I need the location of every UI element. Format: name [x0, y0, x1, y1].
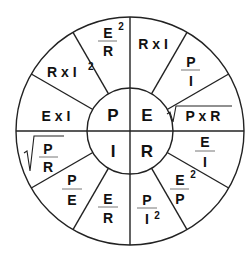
- svg-text:2: 2: [154, 210, 160, 221]
- formula-sqrt-p-x-r: P x R: [167, 106, 232, 124]
- svg-text:I: I: [203, 154, 207, 170]
- svg-text:R: R: [103, 43, 113, 59]
- svg-text:E x I: E x I: [42, 108, 71, 124]
- formula-sqrt-p-over-r: P R: [24, 136, 64, 175]
- svg-text:P: P: [142, 192, 151, 208]
- ohms-law-wheel: P E I R E 2 R R x I 2 E x I R x I P I P …: [0, 0, 252, 257]
- svg-text:2: 2: [190, 169, 196, 180]
- svg-text:E: E: [175, 172, 184, 188]
- svg-text:E: E: [103, 191, 112, 207]
- center-label-p: P: [107, 106, 118, 125]
- center-label-i: I: [111, 142, 116, 161]
- formula-e-over-r: E R: [98, 191, 118, 226]
- svg-text:R: R: [43, 159, 53, 175]
- svg-text:R: R: [103, 210, 113, 226]
- formula-r-x-i: R x I: [138, 36, 168, 52]
- svg-text:R x I: R x I: [138, 36, 168, 52]
- svg-text:P: P: [175, 191, 184, 207]
- svg-text:2: 2: [118, 21, 124, 32]
- formula-p-over-i-squared: P I 2: [137, 192, 160, 227]
- formula-e-over-i: E I: [195, 134, 215, 170]
- svg-text:E: E: [200, 134, 209, 150]
- formula-e-x-i: E x I: [42, 108, 71, 124]
- svg-text:P: P: [186, 54, 195, 70]
- svg-text:I: I: [145, 211, 149, 227]
- svg-text:P x R: P x R: [186, 108, 221, 124]
- formula-p-over-i: P I: [181, 54, 200, 89]
- svg-text:P: P: [67, 172, 76, 188]
- center-label-r: R: [141, 142, 153, 161]
- svg-text:R x I: R x I: [47, 64, 77, 80]
- formula-r-x-i-squared: R x I 2: [47, 61, 94, 80]
- formula-p-over-e: P E: [62, 172, 82, 208]
- center-label-e: E: [141, 106, 152, 125]
- svg-text:E: E: [67, 192, 76, 208]
- formula-e2-over-r: E 2 R: [98, 21, 124, 59]
- svg-text:P: P: [43, 141, 52, 157]
- svg-text:2: 2: [88, 61, 94, 72]
- svg-text:E: E: [103, 25, 112, 41]
- formula-e2-over-p: E 2 P: [170, 169, 196, 207]
- svg-text:I: I: [189, 73, 193, 89]
